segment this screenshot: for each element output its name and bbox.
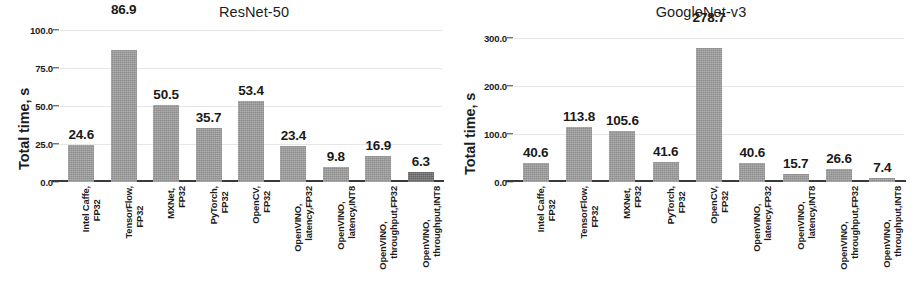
bar-value-label: 35.7 bbox=[196, 110, 221, 125]
x-label-line-1: OpenCV, bbox=[251, 186, 262, 224]
bar-slot[interactable]: 50.5 bbox=[145, 30, 187, 182]
x-label-line-2: FP32 bbox=[633, 186, 644, 208]
bar-slot[interactable]: 24.6 bbox=[60, 30, 102, 182]
x-axis-category-label: OpenVINO,latency,FP32 bbox=[752, 186, 773, 252]
bar-value-label: 113.8 bbox=[563, 109, 595, 124]
x-axis-category-label: MXNet,FP32 bbox=[622, 186, 643, 219]
bar-slot[interactable]: 86.9 bbox=[102, 30, 144, 182]
x-axis-category-label: OpenVINO,throughput,FP32 bbox=[378, 186, 399, 270]
x-label-line-1: TensorFlow, bbox=[124, 186, 135, 239]
x-label-line-1: OpenVINO, bbox=[796, 186, 807, 250]
x-axis-labels: Intel Caffe,FP32TensorFlow,FP32MXNet,FP3… bbox=[514, 182, 904, 294]
x-label-slot: OpenVINO,latency,FP32 bbox=[731, 182, 774, 294]
x-axis-category-label: OpenVINO,latency,FP32 bbox=[293, 186, 314, 252]
x-axis-category-label: PyTorch,FP32 bbox=[209, 186, 230, 224]
plot-area: 0.025.050.075.0100.0 24.686.950.535.753.… bbox=[60, 30, 442, 182]
x-label-slot: OpenVINO,latency,INT8 bbox=[315, 182, 357, 294]
bar[interactable] bbox=[739, 163, 765, 182]
benchmark-figure: ResNet-50 Total time, s 0.025.050.075.01… bbox=[0, 0, 914, 297]
y-tick-label: 25.0 bbox=[35, 139, 53, 150]
y-tick-mark bbox=[53, 29, 59, 30]
x-axis-category-label: OpenVINO,latency,INT8 bbox=[796, 186, 817, 250]
x-axis-category-label: OpenCV,FP32 bbox=[709, 186, 730, 224]
y-tick-mark bbox=[507, 37, 513, 38]
bar[interactable] bbox=[68, 145, 94, 182]
bar-value-label: 105.6 bbox=[606, 113, 639, 128]
bar-slot[interactable]: 105.6 bbox=[601, 38, 644, 182]
bar-value-label: 7.4 bbox=[873, 160, 891, 175]
bar-value-label: 9.8 bbox=[327, 149, 345, 164]
bar-value-label: 15.7 bbox=[783, 156, 808, 171]
bar-series: 24.686.950.535.753.423.49.816.96.3 bbox=[60, 30, 442, 182]
bar-value-label: 23.4 bbox=[281, 128, 306, 143]
x-axis-category-label: TensorFlow,FP32 bbox=[579, 186, 600, 239]
x-label-line-1: Intel Caffe, bbox=[536, 186, 547, 232]
y-axis-title: Total time, s bbox=[462, 93, 478, 175]
bar[interactable] bbox=[609, 131, 635, 182]
y-tick-label: 75.0 bbox=[35, 63, 53, 74]
x-label-line-2: FP32 bbox=[676, 186, 687, 213]
x-label-line-2: FP32 bbox=[177, 186, 188, 208]
bar[interactable] bbox=[323, 167, 349, 182]
bar-slot[interactable]: 113.8 bbox=[557, 38, 600, 182]
x-axis-category-label: MXNet,FP32 bbox=[166, 186, 187, 219]
bar[interactable] bbox=[783, 174, 809, 182]
x-label-slot: OpenVINO,latency,FP32 bbox=[272, 182, 314, 294]
x-label-slot: OpenVINO,throughput,FP32 bbox=[357, 182, 399, 294]
bar-slot[interactable]: 53.4 bbox=[230, 30, 272, 182]
chart-panel-resnet50: ResNet-50 Total time, s 0.025.050.075.01… bbox=[0, 0, 452, 297]
y-tick-mark bbox=[507, 133, 513, 134]
bar-slot[interactable]: 40.6 bbox=[514, 38, 557, 182]
chart-panel-googlenetv3: GoogleNet-v3 Total time, s 0.0100.0200.0… bbox=[452, 0, 914, 297]
bar[interactable] bbox=[365, 156, 391, 182]
x-axis-category-label: PyTorch,FP32 bbox=[666, 186, 687, 224]
bar-slot[interactable]: 35.7 bbox=[187, 30, 229, 182]
x-label-line-1: OpenVINO, bbox=[421, 186, 432, 268]
bar-value-label: 41.6 bbox=[653, 144, 678, 159]
bar[interactable] bbox=[408, 172, 434, 182]
y-tick-mark bbox=[53, 105, 59, 106]
bar-value-label: 50.5 bbox=[153, 87, 178, 102]
x-label-line-2: throughput,FP32 bbox=[849, 186, 860, 259]
y-tick-label: 100.0 bbox=[484, 129, 507, 140]
bar-slot[interactable]: 16.9 bbox=[357, 30, 399, 182]
bar-slot[interactable]: 278.7 bbox=[687, 38, 730, 182]
bar[interactable] bbox=[653, 162, 679, 182]
bar-slot[interactable]: 9.8 bbox=[315, 30, 357, 182]
bar-slot[interactable]: 15.7 bbox=[774, 38, 817, 182]
bar[interactable] bbox=[566, 127, 592, 182]
y-tick-mark bbox=[53, 67, 59, 68]
bar[interactable] bbox=[153, 105, 179, 182]
bar-value-label: 6.3 bbox=[412, 154, 430, 169]
bar-value-label: 24.6 bbox=[68, 127, 93, 142]
bar-slot[interactable]: 6.3 bbox=[400, 30, 442, 182]
bar-slot[interactable]: 23.4 bbox=[272, 30, 314, 182]
bar[interactable] bbox=[696, 48, 722, 182]
bar[interactable] bbox=[523, 163, 549, 182]
bar[interactable] bbox=[111, 50, 137, 182]
x-label-line-1: OpenVINO, bbox=[839, 186, 850, 270]
bar-slot[interactable]: 40.6 bbox=[731, 38, 774, 182]
bar[interactable] bbox=[826, 169, 852, 182]
plot-area: 0.0100.0200.0300.0 40.6113.8105.641.6278… bbox=[514, 38, 904, 182]
x-label-line-2: latency,FP32 bbox=[763, 186, 774, 241]
bar[interactable] bbox=[280, 146, 306, 182]
x-axis-category-label: Intel Caffe,FP32 bbox=[81, 186, 102, 232]
bar-value-label: 278.7 bbox=[693, 10, 726, 25]
x-label-line-2: throughput,INT8 bbox=[431, 186, 442, 257]
bar-slot[interactable]: 26.6 bbox=[817, 38, 860, 182]
y-tick-label: 0.0 bbox=[40, 177, 53, 188]
bar-slot[interactable]: 7.4 bbox=[861, 38, 904, 182]
x-label-slot: OpenVINO,throughput,INT8 bbox=[861, 182, 904, 294]
bar[interactable] bbox=[196, 128, 222, 182]
x-label-slot: OpenVINO,throughput,FP32 bbox=[817, 182, 860, 294]
bar-slot[interactable]: 41.6 bbox=[644, 38, 687, 182]
x-label-slot: PyTorch,FP32 bbox=[187, 182, 229, 294]
x-axis-category-label: OpenVINO,throughput,FP32 bbox=[839, 186, 860, 270]
bar-value-label: 86.9 bbox=[111, 2, 136, 17]
bar[interactable] bbox=[238, 101, 264, 182]
bar-value-label: 26.6 bbox=[826, 151, 851, 166]
x-label-slot: MXNet,FP32 bbox=[601, 182, 644, 294]
y-tick-label: 200.0 bbox=[484, 81, 507, 92]
y-tick-label: 100.0 bbox=[30, 25, 53, 36]
